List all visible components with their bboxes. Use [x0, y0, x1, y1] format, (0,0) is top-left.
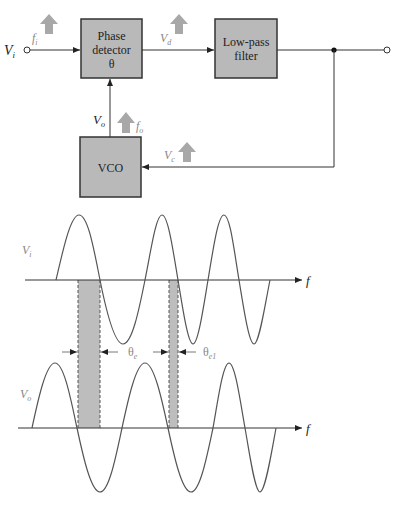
input-terminal: [24, 47, 30, 53]
lpf-line2: filter: [234, 49, 257, 63]
vo-axis-f-label: f: [306, 421, 312, 436]
vd-label: Vd: [160, 31, 172, 47]
phase-detector-line2: detector: [92, 43, 131, 57]
fo-label: fo: [136, 119, 143, 135]
vo-label: Vo: [93, 112, 105, 129]
vc-label: Vc: [164, 148, 175, 164]
vco-block: VCO: [80, 137, 141, 197]
output-terminal: [384, 47, 390, 53]
theta-e1-label: θe1: [203, 345, 216, 361]
vi-wave-label: Vi: [22, 243, 32, 259]
phase-detector-line1: Phase: [98, 29, 126, 43]
vco-label: VCO: [98, 161, 124, 175]
phase-detector-block: Phase detector θ: [81, 19, 142, 78]
fo-up-arrow-icon: [117, 112, 135, 133]
vo-wave-label: Vo: [20, 387, 31, 403]
fi-up-arrow-icon: [40, 14, 58, 34]
vi-axis-f-label: f: [306, 273, 312, 288]
phase-detector-theta: θ: [109, 57, 115, 71]
fi-label: fi: [32, 31, 38, 47]
lpf-line1: Low-pass: [223, 35, 270, 49]
phase-error-region-2: [169, 280, 178, 428]
block-diagram: Vi fi Phase detector θ Vd Low-pass: [4, 14, 390, 197]
vd-up-arrow-icon: [170, 14, 188, 34]
waveform-panel: f Vi θe θe1 f Vo: [18, 215, 312, 492]
theta-e-label: θe: [128, 345, 138, 361]
low-pass-filter-block: Low-pass filter: [215, 19, 277, 78]
vi-input-label: Vi: [4, 43, 16, 60]
vc-up-arrow-icon: [178, 142, 196, 162]
pll-diagram: Vi fi Phase detector θ Vd Low-pass: [0, 0, 404, 508]
phase-error-region-1: [78, 280, 100, 428]
